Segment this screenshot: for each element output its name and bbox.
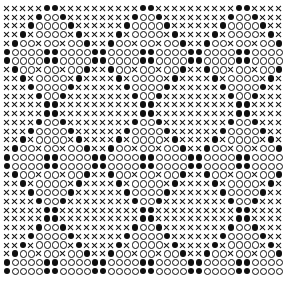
filled-circle-glyph (91, 57, 99, 66)
cross-glyph (187, 206, 195, 215)
cross-glyph (91, 249, 99, 258)
filled-circle-glyph (107, 144, 115, 153)
filled-circle-glyph (147, 100, 155, 109)
filled-circle-glyph (99, 162, 107, 171)
cross-glyph (211, 118, 219, 127)
cross-glyph (91, 127, 99, 136)
filled-circle-glyph (179, 39, 187, 48)
open-circle-glyph (131, 48, 139, 57)
open-circle-glyph (51, 92, 59, 101)
filled-circle-glyph (19, 179, 27, 188)
cross-glyph (75, 13, 83, 22)
cross-glyph (99, 92, 107, 101)
cross-glyph (83, 30, 91, 39)
open-circle-glyph (27, 249, 35, 258)
filled-circle-glyph (43, 258, 51, 267)
cross-glyph (99, 232, 107, 241)
open-circle-glyph (107, 162, 115, 171)
open-circle-glyph (179, 48, 187, 57)
open-circle-glyph (275, 162, 283, 171)
filled-circle-glyph (147, 153, 155, 162)
cross-glyph (171, 4, 179, 13)
open-circle-glyph (275, 57, 283, 66)
open-circle-glyph (211, 162, 219, 171)
open-circle-glyph (107, 258, 115, 267)
cross-glyph (275, 135, 283, 144)
cross-glyph (59, 109, 67, 118)
filled-circle-glyph (235, 153, 243, 162)
open-circle-glyph (243, 241, 251, 250)
open-circle-glyph (235, 135, 243, 144)
cross-glyph (195, 214, 203, 223)
open-circle-glyph (251, 30, 259, 39)
cross-glyph (11, 109, 19, 118)
cross-glyph (115, 214, 123, 223)
filled-circle-glyph (59, 118, 67, 127)
cross-glyph (171, 22, 179, 31)
filled-circle-glyph (139, 258, 147, 267)
open-circle-glyph (107, 57, 115, 66)
cross-glyph (27, 4, 35, 13)
open-circle-glyph (147, 188, 155, 197)
cross-glyph (3, 30, 11, 39)
cross-glyph (11, 83, 19, 92)
cross-glyph (163, 74, 171, 83)
cross-glyph (187, 135, 195, 144)
cross-glyph (19, 214, 27, 223)
filled-circle-glyph (3, 57, 11, 66)
cross-glyph (3, 214, 11, 223)
cross-glyph (267, 232, 275, 241)
filled-circle-glyph (67, 22, 75, 31)
cross-glyph (3, 232, 11, 241)
cross-glyph (67, 197, 75, 206)
cross-glyph (163, 197, 171, 206)
open-circle-glyph (115, 144, 123, 153)
open-circle-glyph (211, 57, 219, 66)
cross-glyph (19, 83, 27, 92)
filled-circle-glyph (51, 153, 59, 162)
cross-glyph (123, 100, 131, 109)
open-circle-glyph (259, 39, 267, 48)
filled-circle-glyph (155, 92, 163, 101)
open-circle-glyph (131, 179, 139, 188)
cross-glyph (115, 206, 123, 215)
filled-circle-glyph (235, 214, 243, 223)
open-circle-glyph (115, 258, 123, 267)
open-circle-glyph (19, 48, 27, 57)
filled-circle-glyph (235, 258, 243, 267)
open-circle-glyph (147, 83, 155, 92)
open-circle-glyph (75, 153, 83, 162)
cross-glyph (211, 22, 219, 31)
cross-glyph (187, 214, 195, 223)
cross-glyph (19, 13, 27, 22)
filled-circle-glyph (91, 48, 99, 57)
cross-glyph (267, 206, 275, 215)
cross-glyph (67, 74, 75, 83)
filled-circle-glyph (27, 83, 35, 92)
cross-glyph (203, 241, 211, 250)
open-circle-glyph (147, 30, 155, 39)
open-circle-glyph (211, 39, 219, 48)
pattern-row (3, 171, 283, 180)
open-circle-glyph (43, 249, 51, 258)
open-circle-glyph (43, 39, 51, 48)
open-circle-glyph (59, 188, 67, 197)
cross-glyph (107, 109, 115, 118)
open-circle-glyph (35, 232, 43, 241)
cross-glyph (67, 100, 75, 109)
open-circle-glyph (147, 39, 155, 48)
open-circle-glyph (171, 144, 179, 153)
cross-glyph (3, 65, 11, 74)
filled-circle-glyph (67, 188, 75, 197)
cross-glyph (27, 30, 35, 39)
filled-circle-glyph (195, 153, 203, 162)
cross-glyph (195, 249, 203, 258)
cross-glyph (171, 118, 179, 127)
cross-glyph (11, 188, 19, 197)
open-circle-glyph (131, 135, 139, 144)
open-circle-glyph (35, 135, 43, 144)
pattern-row (3, 39, 283, 48)
filled-circle-glyph (179, 171, 187, 180)
filled-circle-glyph (91, 258, 99, 267)
cross-glyph (83, 127, 91, 136)
